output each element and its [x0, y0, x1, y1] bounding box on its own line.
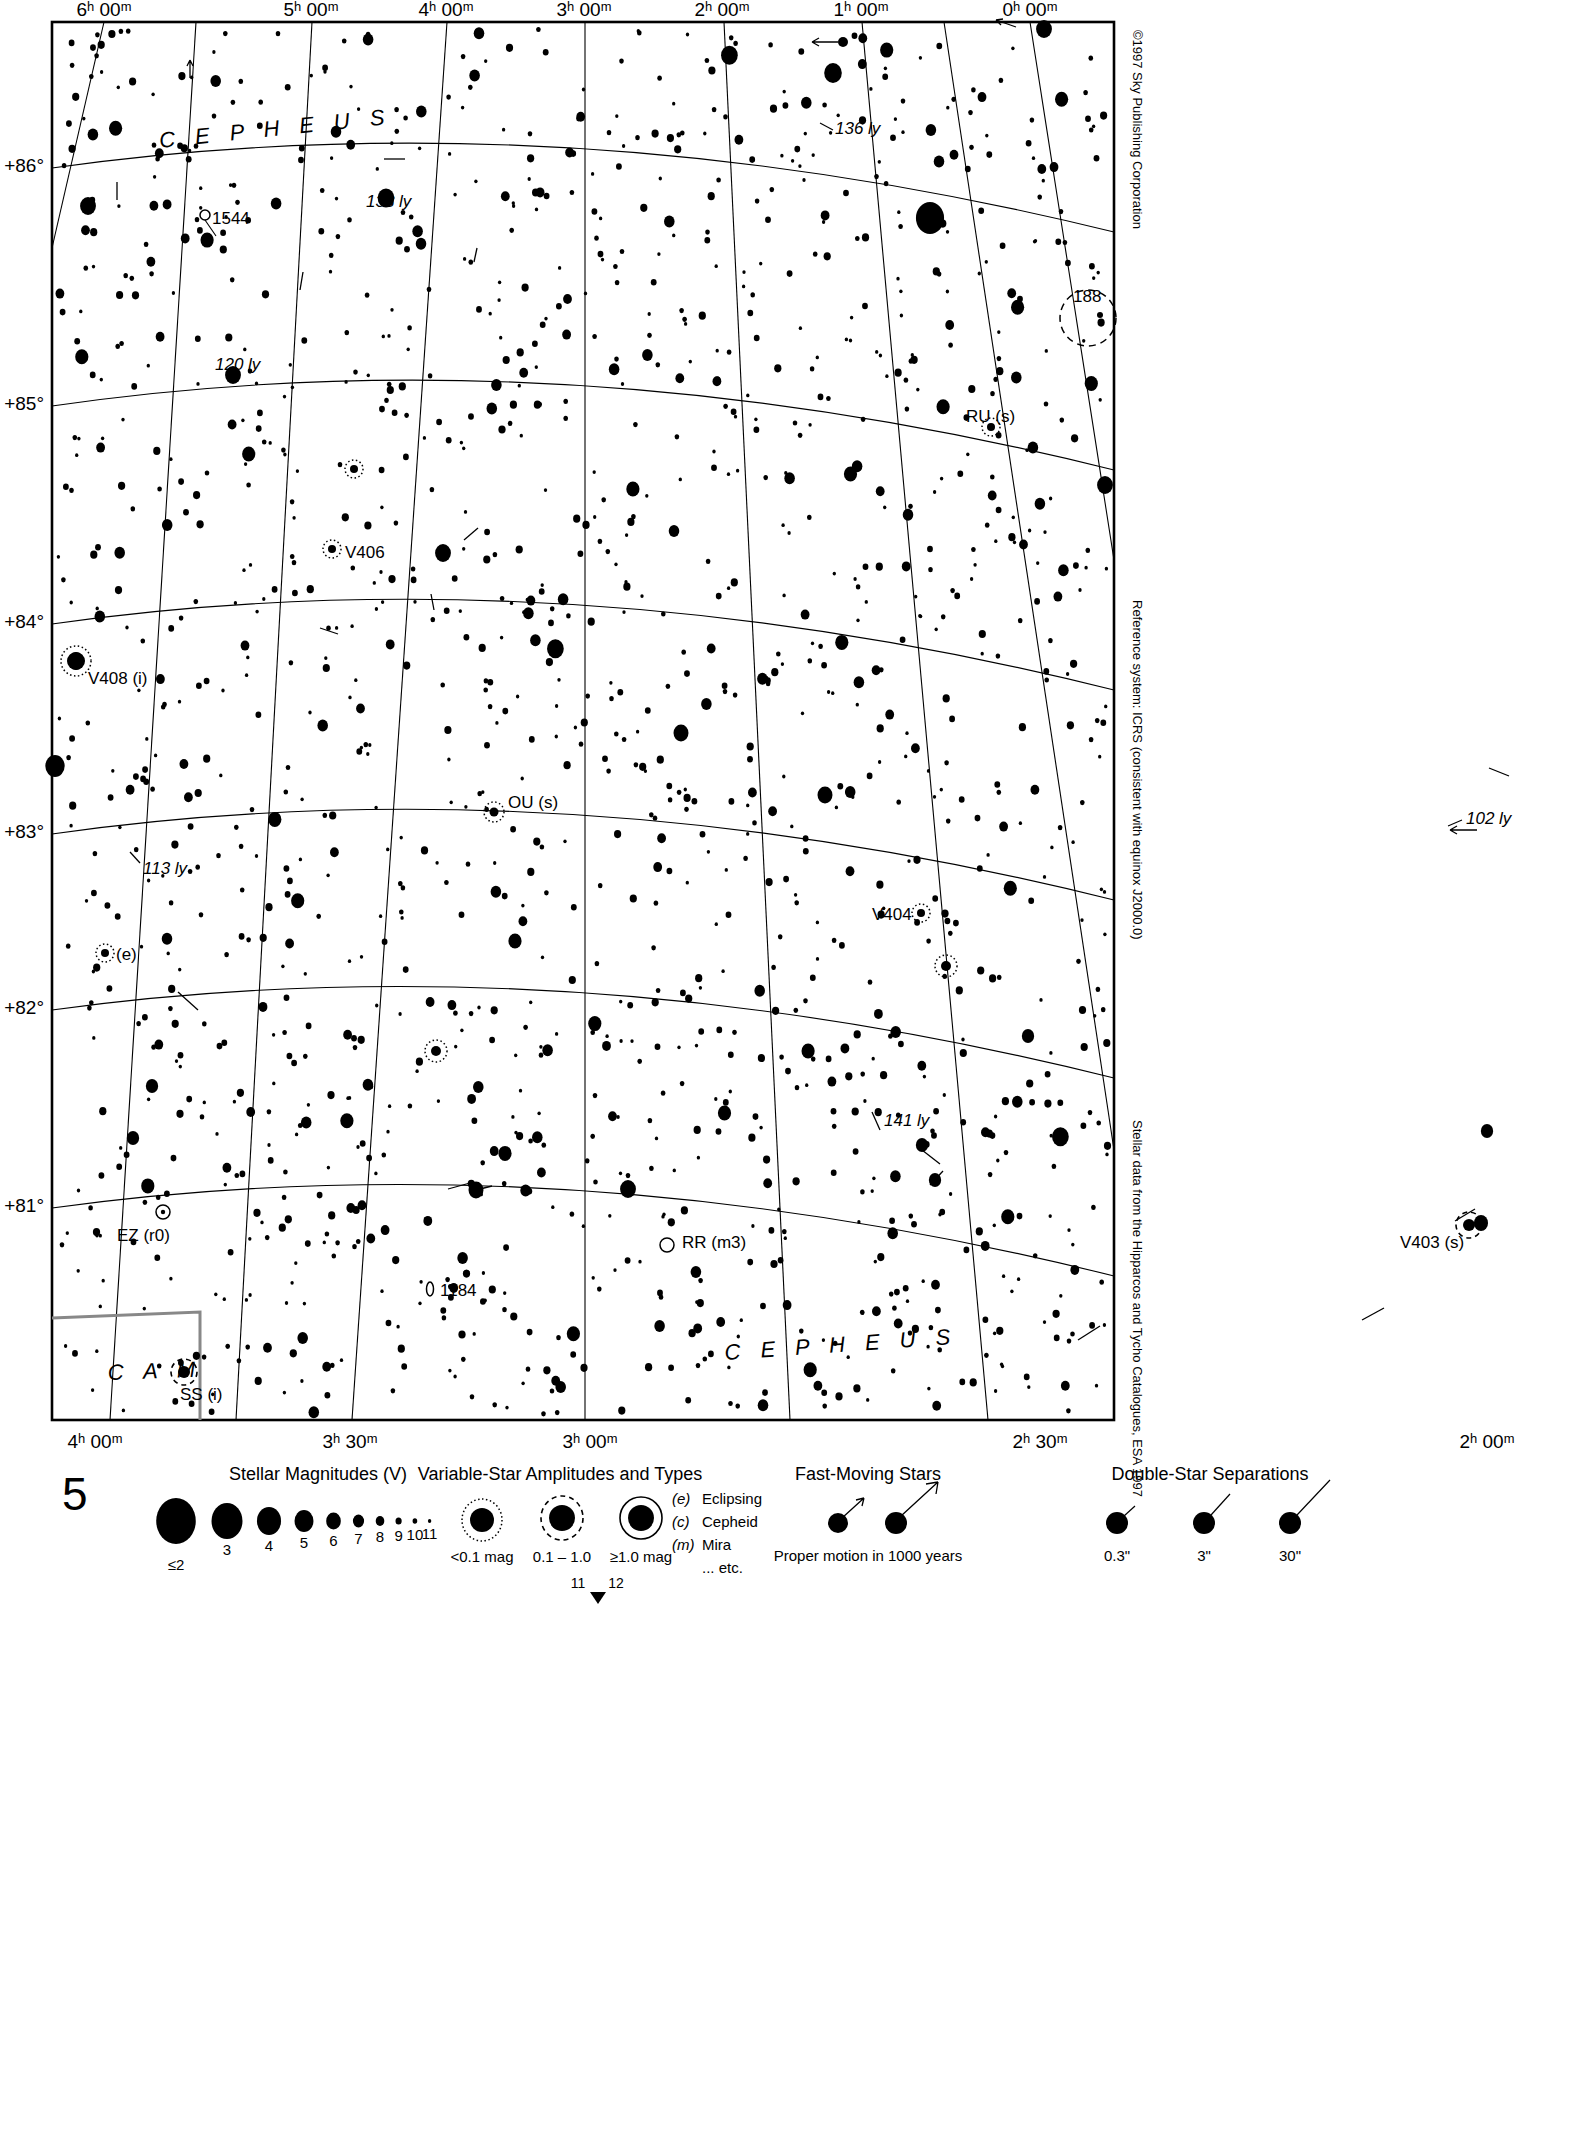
star-dot	[532, 340, 538, 347]
star-dot	[338, 462, 343, 467]
star-dot	[627, 1002, 633, 1009]
star-dot	[323, 664, 330, 672]
star-dot	[941, 614, 946, 619]
star-dot	[537, 1168, 546, 1178]
star-dot	[1066, 1408, 1071, 1413]
object-label-113ly: 113 ly	[143, 859, 189, 878]
ra-tick-label: 3ʰ 00ᵐ	[562, 1431, 617, 1452]
star-dot	[954, 593, 960, 600]
star-dot	[390, 308, 393, 312]
star-dot	[421, 846, 428, 854]
star-dot	[977, 966, 984, 974]
star-dot	[971, 547, 976, 552]
star-dot	[367, 373, 370, 377]
star-dot	[459, 609, 462, 613]
star-dot	[877, 1253, 884, 1261]
star-dot	[997, 790, 1002, 795]
star-dot	[1001, 1209, 1014, 1224]
star-dot	[904, 378, 909, 383]
star-dot	[729, 798, 735, 805]
star-dot	[411, 577, 417, 584]
ra-tick-label: 5ʰ 00ᵐ	[283, 0, 338, 20]
star-dot	[522, 610, 525, 614]
star-dot	[990, 474, 995, 479]
star-dot	[878, 160, 881, 164]
star-dot	[637, 29, 640, 33]
object-label-133ly: 133 ly	[366, 192, 413, 211]
star-dot	[163, 199, 172, 209]
legend-magnitude-dot	[156, 1498, 196, 1544]
star-dot	[442, 1315, 447, 1320]
star-dot	[616, 163, 622, 170]
star-dot	[750, 292, 755, 297]
star-dot	[686, 881, 689, 885]
star-dot	[593, 470, 596, 474]
star-dot	[335, 626, 338, 630]
star-dot	[1081, 1123, 1087, 1130]
star-dot	[933, 490, 936, 494]
star-dot	[965, 166, 971, 173]
star-dot	[403, 115, 408, 120]
star-dot	[89, 1000, 94, 1005]
star-dot	[168, 625, 174, 632]
star-dot	[262, 439, 267, 444]
star-dot	[747, 756, 753, 763]
star-dot	[299, 145, 305, 152]
star-dot	[988, 491, 997, 501]
star-dot	[482, 1271, 485, 1275]
star-dot	[733, 41, 738, 46]
star-dot	[327, 1091, 334, 1099]
star-dot	[540, 322, 546, 329]
star-dot	[889, 1218, 895, 1225]
star-dot	[529, 1000, 532, 1004]
star-dot	[1045, 1071, 1051, 1078]
star-dot	[763, 475, 768, 480]
star-dot	[916, 388, 919, 392]
star-dot	[256, 425, 262, 432]
star-dot	[661, 1215, 664, 1219]
star-dot	[1105, 1153, 1108, 1157]
dec-tick-label: +83°	[4, 821, 44, 842]
star-dot	[821, 1389, 827, 1396]
star-dot	[284, 789, 289, 794]
star-dot	[855, 236, 860, 241]
object-label-102ly: 102 ly	[1466, 809, 1513, 828]
star-dot	[514, 1053, 517, 1057]
star-dot	[765, 676, 768, 680]
star-dot	[919, 56, 922, 60]
star-dot	[930, 1129, 935, 1134]
star-dot	[418, 146, 421, 150]
star-dot	[852, 460, 863, 472]
star-dot	[794, 900, 799, 905]
star-dot	[448, 1000, 457, 1010]
star-dot	[727, 1366, 730, 1370]
star-dot	[645, 707, 651, 714]
star-dot	[654, 1320, 665, 1332]
star-dot	[171, 1155, 177, 1162]
star-dot	[518, 384, 521, 388]
star-dot	[755, 199, 760, 204]
star-dot	[771, 965, 776, 970]
star-dot	[783, 1300, 792, 1310]
star-dot	[136, 1021, 141, 1026]
star-dot	[839, 942, 845, 949]
star-dot	[858, 59, 867, 69]
ra-tick-label: 2ʰ 30ᵐ	[1012, 1431, 1067, 1452]
star-dot	[890, 1170, 901, 1182]
star-dot	[868, 980, 873, 985]
star-dot	[1067, 1339, 1072, 1344]
star-dot	[498, 425, 505, 433]
star-dot	[358, 1036, 365, 1044]
star-dot	[550, 1388, 555, 1393]
star-dot	[408, 1103, 413, 1108]
star-dot	[677, 1045, 680, 1049]
star-dot	[460, 1028, 463, 1032]
star-dot	[134, 847, 139, 852]
star-dot	[464, 805, 467, 809]
legend-magnitude-label: 10	[407, 1526, 424, 1543]
star-dot	[686, 33, 689, 37]
star-dot	[502, 893, 508, 900]
star-dot	[474, 179, 477, 183]
legend-double-sep-1: 0.3"	[1104, 1547, 1130, 1564]
star-dot	[874, 1009, 883, 1019]
